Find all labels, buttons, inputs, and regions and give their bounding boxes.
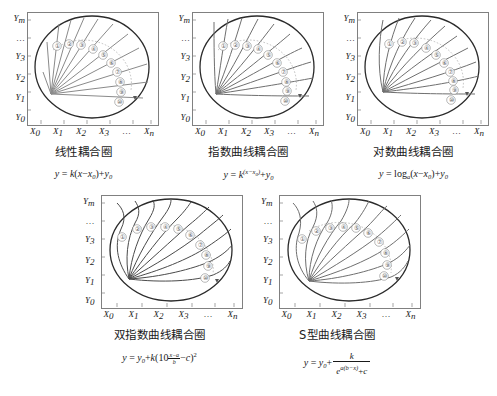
panel-exponential: Ym … Y3 Y2 Y1 Y0 [166,0,331,181]
fraction-denominator: ea(b−x)+c [333,361,370,377]
y-tick-y2: Y2 [263,256,273,267]
y-axis-labels-logarithmic: Ym … Y3 Y2 Y1 Y0 [333,14,355,124]
outer-circle [200,16,314,118]
marker-10: ⑩ [202,275,207,281]
y-tick-y0: Y0 [263,296,273,307]
y-tick-y2: Y2 [180,73,190,84]
y-tick-ellipsis: … [346,34,355,43]
panel-formula-linear: y = k(x−x0)+y0 [1,168,166,180]
marker-7: ⑦ [197,242,202,248]
y-tick-y0: Y0 [180,113,190,124]
marker-5: ⑤ [434,52,439,58]
x-axis-labels-logarithmic: X0 X1 X2 X3 … Xn [357,126,487,138]
marker-3: ③ [148,224,153,230]
y-axis-labels-exponential: Ym … Y3 Y2 Y1 Y0 [168,14,190,124]
marker-2: ② [67,41,72,47]
y-tick-y3: Y3 [180,52,190,63]
marker-1: ① [221,43,226,49]
plot-area-double-exponential: Ym … Y3 Y2 Y1 Y0 [71,183,249,323]
y-tick-ym: Ym [83,197,95,208]
marker-6: ⑥ [275,60,280,66]
marker-1: ① [387,41,392,47]
panel-double-exponential: Ym … Y3 Y2 Y1 Y0 [71,183,249,377]
coupling-circle-svg-s-curve: ① ② ③ ④ ⑤ ⑥ ⑦ ⑧ ⑨ ⑩ [279,195,419,307]
x-tick-x3: X3 [264,126,274,138]
diagram-linear: ① ② ③ ④ ⑤ ⑥ ⑦ ⑧ ⑨ ⑩ [27,12,157,124]
outer-circle [110,199,232,301]
y-tick-y1: Y1 [263,276,273,287]
x-tick-ellipsis: … [452,126,461,138]
coupling-circle-svg-linear: ① ② ③ ④ ⑤ ⑥ ⑦ ⑧ ⑨ ⑩ [27,12,157,124]
y-tick-ellipsis: … [264,217,273,226]
exponent-fraction: x−ab [168,352,180,365]
axis-ticks [279,203,412,307]
x-tick-ellipsis: … [204,309,213,321]
x-axis-labels-linear: X0 X1 X2 X3 … Xn [27,126,157,138]
x-tick-x2: X2 [332,309,342,321]
x-tick-x2: X2 [76,126,86,138]
dotted-arc [309,222,391,273]
y-tick-ellipsis: … [86,217,95,226]
plot-area-logarithmic: Ym … Y3 Y2 Y1 Y0 [331,0,496,140]
coupling-curves [43,18,148,98]
y-tick-ym: Ym [178,14,190,25]
marker-1: ① [299,236,304,242]
y-axis-labels-linear: Ym … Y3 Y2 Y1 Y0 [3,14,25,124]
x-tick-xn: Xn [228,309,238,321]
marker-9: ⑨ [384,262,389,268]
marker-2: ② [313,228,318,234]
marker-8: ⑧ [118,79,123,85]
y-tick-y1: Y1 [85,276,95,287]
marker-10: ⑩ [381,273,386,279]
marker-4: ④ [91,46,96,52]
panel-logarithmic: Ym … Y3 Y2 Y1 Y0 [331,0,496,181]
y-tick-y2: Y2 [15,73,25,84]
marker-2: ② [233,42,238,48]
coupling-curves [293,200,410,283]
marker-6: ⑥ [365,230,370,236]
x-tick-x1: X1 [129,309,139,321]
marker-8: ⑧ [203,252,208,258]
plot-area-exponential: Ym … Y3 Y2 Y1 Y0 [166,0,331,140]
marker-3: ③ [412,40,417,46]
coupling-curves [117,200,232,281]
plot-area-linear: Ym … Y3 Y2 Y1 Y0 [1,0,166,140]
marker-1: ① [119,234,124,240]
marker-5: ⑤ [266,52,271,58]
y-tick-y0: Y0 [85,296,95,307]
y-tick-y1: Y1 [15,93,25,104]
marker-3: ③ [327,225,332,231]
panel-title-logarithmic: 对数曲线耦合圈 [331,143,496,159]
panel-formula-logarithmic: y = loga(x−x0)+y0 [331,168,496,180]
x-tick-x3: X3 [357,309,367,321]
marker-9: ⑨ [205,263,210,269]
x-tick-x3: X3 [99,126,109,138]
x-tick-x3: X3 [429,126,439,138]
y-tick-ym: Ym [13,14,25,25]
x-tick-x0: X0 [360,126,370,138]
axis-ticks [357,20,481,124]
x-tick-x2: X2 [241,126,251,138]
marker-2: ② [400,39,405,45]
y-tick-y2: Y2 [85,256,95,267]
marker-8: ⑧ [284,79,289,85]
panel-title-double-exponential: 双指数曲线耦合圈 [71,326,249,342]
panel-formula-exponential: y = k(x−x0)+y0 [166,168,331,181]
marker-6: ⑥ [442,60,447,66]
panel-linear: Ym … Y3 Y2 Y1 Y0 [1,0,166,181]
x-axis-labels-double-exponential: X0 X1 X2 X3 … Xn [101,309,241,321]
marker-4: ④ [256,46,261,52]
x-tick-ellipsis: … [382,309,391,321]
marker-3: ③ [245,43,250,49]
x-axis-labels-s-curve: X0 X1 X2 X3 … Xn [279,309,419,321]
coupling-circles-figure: Ym … Y3 Y2 Y1 Y0 [0,0,497,396]
marker-3: ③ [79,42,84,48]
y-tick-ym: Ym [343,14,355,25]
marker-10: ⑩ [283,98,288,104]
panel-formula-double-exponential: y = y0+k(10x−ab−c)2 [71,351,249,365]
y-tick-y1: Y1 [345,93,355,104]
x-tick-xn: Xn [474,126,484,138]
axis-ticks [101,203,234,307]
marker-6: ⑥ [187,232,192,238]
y-tick-y3: Y3 [85,235,95,246]
